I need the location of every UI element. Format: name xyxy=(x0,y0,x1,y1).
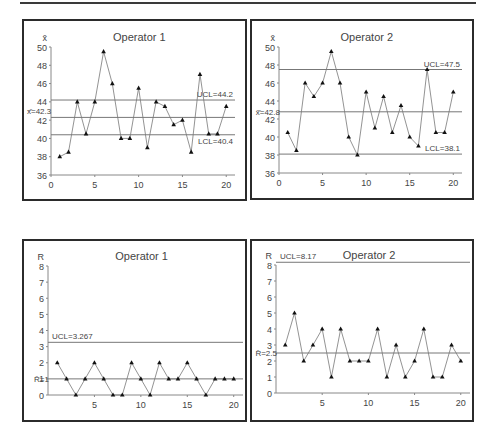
data-point-triangle-marker xyxy=(346,134,351,138)
y-tick-label: 46 xyxy=(37,79,47,89)
y-tick-label: 36 xyxy=(37,171,47,181)
data-point-triangle-marker xyxy=(422,326,427,330)
y-tick-label: 36 xyxy=(265,169,275,179)
data-point-triangle-marker xyxy=(55,360,60,364)
data-point-triangle-marker xyxy=(101,49,106,53)
data-point-triangle-marker xyxy=(434,130,439,134)
y-tick-label: 4 xyxy=(267,325,272,335)
data-point-triangle-marker xyxy=(399,103,404,107)
y-tick-label: 0 xyxy=(39,391,44,401)
y-tick-label: 2 xyxy=(39,358,44,368)
chart-panel-xbar-operator-2: Operator 2x̄363840424446485005101520UCL=… xyxy=(250,19,474,200)
x-tick-label: 15 xyxy=(405,178,415,188)
y-tick-label: 3 xyxy=(39,342,44,352)
chart-svg: Operator 1R0123456785101520UCL=3.267R̄=1 xyxy=(24,241,249,424)
x-tick-label: 0 xyxy=(276,178,281,188)
data-point-triangle-marker xyxy=(198,72,203,76)
data-point-triangle-marker xyxy=(357,358,362,362)
data-point-triangle-marker xyxy=(366,358,371,362)
control-line-label-lcl: LCL=38.1 xyxy=(425,144,460,153)
data-point-triangle-marker xyxy=(329,49,334,53)
control-line-label-ucl: UCL=8.17 xyxy=(280,252,317,261)
data-point-triangle-marker xyxy=(381,94,386,98)
y-tick-label: 2 xyxy=(267,357,272,367)
y-tick-label: 40 xyxy=(37,134,47,144)
data-point-triangle-marker xyxy=(364,89,369,93)
control-line-label-cl: x̄̄=42.3 xyxy=(27,107,52,116)
data-point-triangle-marker xyxy=(294,148,299,152)
data-point-triangle-marker xyxy=(301,358,306,362)
data-point-triangle-marker xyxy=(451,89,456,93)
data-point-triangle-marker xyxy=(390,130,395,134)
data-point-triangle-marker xyxy=(283,342,288,346)
data-point-triangle-marker xyxy=(110,81,115,85)
y-tick-label: 6 xyxy=(39,294,44,304)
data-point-triangle-marker xyxy=(92,360,97,364)
data-point-triangle-marker xyxy=(206,131,211,135)
y-tick-label: 44 xyxy=(265,97,275,107)
chart-title: Operator 1 xyxy=(115,250,168,262)
data-point-triangle-marker xyxy=(189,150,194,154)
y-tick-label: 8 xyxy=(39,262,44,272)
y-axis-label: R xyxy=(38,252,45,262)
x-tick-label: 10 xyxy=(361,178,371,188)
y-axis-label: R xyxy=(266,251,273,261)
x-tick-label: 10 xyxy=(136,400,146,410)
x-tick-label: 20 xyxy=(456,398,466,408)
data-point-triangle-marker xyxy=(440,374,445,378)
y-tick-label: 44 xyxy=(37,97,47,107)
data-point-triangle-marker xyxy=(119,136,124,140)
chart-title: Operator 2 xyxy=(341,31,394,43)
data-point-triangle-marker xyxy=(224,104,229,108)
data-point-triangle-marker xyxy=(215,131,220,135)
y-tick-label: 7 xyxy=(267,277,272,287)
control-line-label-lcl: LCL=40.4 xyxy=(198,137,233,146)
chart-panel-xbar-operator-1: Operator 1x̄363840424446485005101520UCL=… xyxy=(22,19,247,201)
chart-svg: Operator 2x̄363840424446485005101520UCL=… xyxy=(252,21,476,202)
data-point-triangle-marker xyxy=(375,326,380,330)
x-tick-label: 15 xyxy=(410,398,420,408)
x-tick-label: 20 xyxy=(221,180,231,190)
chart-svg: Operator 2R0123456785101520UCL=8.17R̄=2.… xyxy=(252,241,476,424)
data-point-triangle-marker xyxy=(145,145,150,149)
data-point-triangle-marker xyxy=(449,342,454,346)
data-point-triangle-marker xyxy=(407,134,412,138)
data-point-triangle-marker xyxy=(458,358,463,362)
y-tick-label: 1 xyxy=(267,373,272,383)
data-point-triangle-marker xyxy=(136,86,141,90)
y-tick-label: 50 xyxy=(37,43,47,53)
data-point-triangle-marker xyxy=(442,130,447,134)
y-tick-label: 8 xyxy=(267,261,272,271)
data-point-triangle-marker xyxy=(348,358,353,362)
data-point-triangle-marker xyxy=(292,310,297,314)
y-axis-label: x̄ xyxy=(43,33,48,43)
x-tick-label: 5 xyxy=(320,178,325,188)
data-point-triangle-marker xyxy=(129,360,134,364)
y-tick-label: 4 xyxy=(39,326,44,336)
control-line-label-cl: R̄=2.5 xyxy=(255,349,277,358)
data-point-triangle-marker xyxy=(128,136,133,140)
data-point-triangle-marker xyxy=(185,360,190,364)
data-point-triangle-marker xyxy=(412,358,417,362)
x-tick-label: 10 xyxy=(134,180,144,190)
x-tick-label: 20 xyxy=(229,400,239,410)
y-tick-label: 48 xyxy=(37,61,47,71)
x-tick-label: 20 xyxy=(448,178,458,188)
y-tick-label: 5 xyxy=(267,309,272,319)
y-tick-label: 38 xyxy=(265,151,275,161)
x-tick-label: 5 xyxy=(92,400,97,410)
y-tick-label: 7 xyxy=(39,278,44,288)
data-point-triangle-marker xyxy=(84,131,89,135)
data-point-triangle-marker xyxy=(66,150,71,154)
y-tick-label: 6 xyxy=(267,293,272,303)
x-tick-label: 10 xyxy=(363,398,373,408)
chart-panel-r-operator-1: Operator 1R0123456785101520UCL=3.267R̄=1 xyxy=(22,239,247,422)
top-rule-divider xyxy=(20,2,476,4)
data-point-triangle-marker xyxy=(320,326,325,330)
x-tick-label: 5 xyxy=(92,180,97,190)
data-point-triangle-marker xyxy=(303,80,308,84)
y-tick-label: 48 xyxy=(265,61,275,71)
y-tick-label: 42 xyxy=(37,116,47,126)
y-tick-label: 38 xyxy=(37,152,47,162)
control-line-label-cl: R̄=1 xyxy=(34,375,49,384)
